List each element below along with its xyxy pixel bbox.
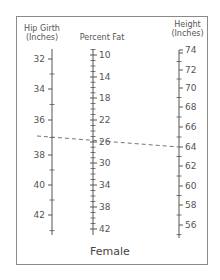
height-tick-label: 66 [185, 122, 197, 132]
fat-tick-label: 38 [99, 202, 111, 212]
fat-tick-label: 14 [99, 72, 111, 82]
fat-tick-label: 22 [99, 115, 110, 125]
fat-tick-label: 18 [99, 93, 111, 103]
hip-tick-label: 42 [34, 210, 45, 220]
hip-tick-label: 40 [34, 180, 46, 190]
height-tick-label: 56 [185, 220, 197, 230]
fat-tick-label: 30 [99, 158, 111, 168]
height-tick-label: 58 [185, 200, 197, 210]
height-tick-label: 72 [185, 65, 196, 75]
nomogram-svg: 3234363840421014182226303438427472706866… [0, 0, 220, 280]
height-tick-label: 64 [185, 142, 197, 152]
hip-tick-label: 34 [34, 84, 46, 94]
sex-label: Female [60, 245, 160, 258]
height-tick-label: 60 [185, 181, 197, 191]
hip-tick-label: 38 [34, 150, 46, 160]
height-tick-label: 68 [185, 102, 197, 112]
fat-tick-label: 42 [99, 224, 110, 234]
height-tick-label: 62 [185, 161, 196, 171]
fat-tick-label: 34 [99, 180, 111, 190]
fat-tick-label: 10 [99, 50, 111, 60]
height-tick-label: 70 [185, 83, 197, 93]
hip-tick-label: 36 [34, 115, 46, 125]
height-tick-label: 74 [185, 45, 197, 55]
hip-tick-label: 32 [34, 54, 45, 64]
